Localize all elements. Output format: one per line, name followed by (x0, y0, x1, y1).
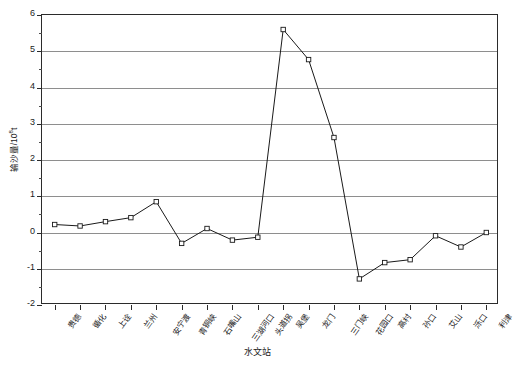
x-axis-tick-label: 循化 (90, 311, 108, 330)
x-axis-tick-label: 龙门 (318, 311, 336, 330)
y-axis-tick-label: 3 (9, 118, 35, 127)
data-point-marker (230, 238, 234, 242)
x-axis-tick (156, 305, 157, 310)
data-point-marker (357, 277, 361, 281)
y-axis-title-exponent: 8 (8, 130, 14, 133)
data-point-marker (103, 219, 107, 223)
x-axis-tick (207, 305, 208, 310)
x-axis-tick (80, 305, 81, 310)
y-axis-title: 输沙量/108t (7, 100, 19, 200)
x-axis-title: 水文站 (0, 345, 514, 358)
x-axis-tick-label: 头道拐 (271, 311, 294, 337)
y-axis-title-unit: t (9, 128, 19, 130)
x-axis-tick-label: 安宁渡 (169, 311, 192, 337)
x-axis-tick-label: 利津 (496, 311, 514, 330)
x-axis-tick-label: 青铜峡 (195, 311, 218, 337)
y-axis-title-text: 输沙量/10 (9, 133, 19, 172)
data-point-marker (52, 222, 56, 226)
x-axis-tick-label: 吴堡 (293, 311, 311, 330)
data-point-marker (154, 199, 158, 203)
x-axis-tick (309, 305, 310, 310)
x-axis-tick (182, 305, 183, 310)
data-point-marker (332, 135, 336, 139)
x-axis-tick (258, 305, 259, 310)
y-axis-tick-label: 0 (9, 227, 35, 236)
data-point-marker (459, 245, 463, 249)
x-axis-tick-label: 兰州 (141, 311, 159, 330)
x-axis-tick (410, 305, 411, 310)
series-line (55, 30, 487, 279)
x-axis-tick (283, 305, 284, 310)
data-point-marker (408, 257, 412, 261)
x-axis-tick (131, 305, 132, 310)
x-axis-tick (486, 305, 487, 310)
data-point-marker (205, 226, 209, 230)
data-point-marker (383, 260, 387, 264)
x-axis-tick (385, 305, 386, 310)
y-axis-tick (37, 305, 42, 306)
x-axis-tick-label: 孙口 (420, 311, 438, 330)
x-axis-tick (436, 305, 437, 310)
data-point-marker (129, 215, 133, 219)
data-point-marker (256, 235, 260, 239)
data-point-marker (306, 57, 310, 61)
x-axis-tick-label: 花园口 (373, 311, 396, 337)
x-axis-tick (461, 305, 462, 310)
y-axis-tick-label: 1 (9, 190, 35, 199)
x-axis-tick (55, 305, 56, 310)
x-axis-tick-label: 贵德 (65, 311, 83, 330)
x-axis-tick-label: 艾山 (445, 311, 463, 330)
plot-area (41, 14, 498, 304)
x-axis-tick-label: 石嘴山 (220, 311, 243, 337)
x-axis-tick-label: 泺口 (471, 311, 489, 330)
chart-container: 输沙量/108t 水文站 6543210-1-2贵德循化上诠兰州安宁渡青铜峡石嘴… (0, 0, 514, 367)
x-axis-tick (359, 305, 360, 310)
y-axis-tick-label: -2 (9, 299, 35, 308)
x-axis-tick-label: 三门峡 (347, 311, 370, 337)
data-point-marker (179, 241, 183, 245)
data-point-marker (484, 230, 488, 234)
x-axis-tick (105, 305, 106, 310)
data-point-marker (78, 224, 82, 228)
y-axis-tick-label: 4 (9, 82, 35, 91)
y-axis-tick-label: 6 (9, 9, 35, 18)
y-axis-tick-label: 2 (9, 154, 35, 163)
x-axis-tick-label: 高村 (395, 311, 413, 330)
x-axis-tick (334, 305, 335, 310)
data-point-marker (281, 27, 285, 31)
data-point-marker (433, 234, 437, 238)
y-axis-tick-label: -1 (9, 263, 35, 272)
x-axis-tick-label: 上诠 (115, 311, 133, 330)
y-axis-tick-label: 5 (9, 45, 35, 54)
x-axis-tick (232, 305, 233, 310)
data-series (42, 15, 499, 305)
